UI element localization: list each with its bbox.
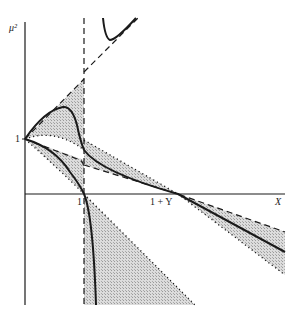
diagram-canvas (0, 0, 301, 320)
middle-shaded-region (84, 140, 178, 194)
left-lower-shaded-region (25, 139, 84, 194)
y-tick-label-1: 1 (15, 133, 20, 144)
x-tick-label-1: 1 (77, 196, 82, 207)
x-axis-label: X (275, 196, 281, 207)
bottom-shaded-region (84, 194, 195, 305)
upper-shaded-region (25, 79, 84, 150)
x-tick-label-1-plus-y: 1 + Y (150, 196, 173, 207)
shaded-regions (25, 79, 285, 305)
upper-right-dashed-asymptote (84, 18, 138, 72)
y-axis-label: μ² (9, 22, 17, 33)
